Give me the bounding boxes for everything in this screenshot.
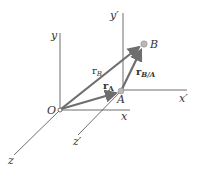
- label-vector-rA: rA: [103, 80, 114, 93]
- origin-point: [58, 108, 62, 112]
- label-z-prime: z′: [72, 135, 82, 148]
- point-B: [141, 41, 147, 47]
- label-z: z: [7, 154, 14, 167]
- label-vector-rBA: rB/A: [136, 66, 156, 79]
- label-y: y: [50, 29, 58, 42]
- label-point-B: B: [149, 38, 158, 51]
- diagram-canvas: y x z O y′ x′ z′ A B rB rA rB/A: [0, 0, 200, 171]
- label-origin: O: [47, 104, 56, 117]
- label-x-prime: x′: [179, 92, 188, 105]
- label-vector-rB: rB: [92, 65, 102, 78]
- label-y-prime: y′: [109, 9, 119, 22]
- vectors: [61, 47, 141, 109]
- vector-rA: [61, 93, 116, 109]
- label-point-A: A: [116, 93, 125, 106]
- label-x: x: [121, 110, 128, 123]
